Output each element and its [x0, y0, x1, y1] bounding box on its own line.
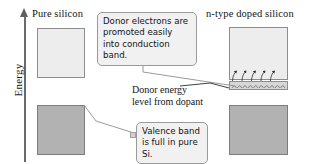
- energy-axis-line: [24, 16, 26, 162]
- donor-energy-level-label-line1: Donor energy: [132, 84, 210, 96]
- donor-energy-level-label: Donor energy level from dopant: [132, 84, 210, 108]
- axis-label-energy: Energy: [12, 50, 24, 110]
- valence-band-pure: [37, 105, 85, 155]
- callout-donor-electrons[interactable]: Donor electrons are promoted easily into…: [97, 12, 197, 66]
- callout-valence-band[interactable]: Valence band is full in pure Si.: [136, 122, 208, 164]
- column-title-n-type-doped-silicon: n-type doped silicon: [206, 8, 294, 19]
- conduction-band-pure: [37, 28, 85, 78]
- donor-energy-level-label-line2: level from dopant: [132, 96, 210, 108]
- column-title-pure-silicon: Pure silicon: [32, 8, 83, 19]
- band-diagram-figure: Energy Pure silicon n-type doped silicon: [0, 0, 310, 164]
- valence-band-doped: [229, 105, 288, 155]
